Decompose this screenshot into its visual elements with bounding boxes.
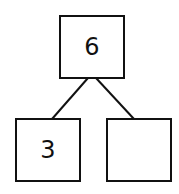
part-box-left: 3: [15, 118, 81, 182]
part-box-right[interactable]: [106, 118, 172, 182]
connector-left: [52, 78, 88, 119]
whole-box: 6: [59, 15, 125, 79]
connector-right: [96, 78, 134, 119]
